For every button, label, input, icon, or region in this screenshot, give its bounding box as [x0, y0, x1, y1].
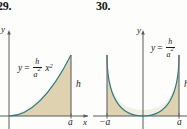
height-label-h-29: h	[76, 80, 81, 90]
denominator-exponent-30: 2	[171, 45, 174, 52]
x-tick-label-a-29: a	[68, 118, 73, 128]
denominator-base-29: a	[34, 70, 38, 79]
equation-equals-30: =	[157, 44, 162, 54]
equation-30: y = h a2	[151, 38, 176, 59]
figure-30-graphic	[93, 0, 187, 129]
equation-29: y = h a2 x2	[18, 58, 53, 79]
x-axis-label-29: x	[83, 118, 87, 127]
height-label-h-30: h	[184, 80, 187, 90]
figure-panel-30: 30. y −a a h y	[93, 0, 187, 129]
figure-pair-page: 29. y x a h	[0, 0, 187, 129]
y-axis-arrow-30	[141, 30, 145, 35]
equation-lhs-29: y	[18, 64, 22, 74]
y-axis-label-29: y	[1, 25, 5, 34]
y-axis-arrow-29	[7, 30, 11, 35]
denominator-exponent-29: 2	[38, 65, 41, 72]
fraction-denominator-30: a2	[166, 48, 175, 59]
figure-panel-29: 29. y x a h	[0, 0, 93, 129]
x-tick-label-neg-a-30: −a	[99, 118, 110, 128]
equation-variable-exponent-29: 2	[50, 63, 53, 70]
y-axis-label-30: y	[137, 26, 141, 35]
equation-lhs-30: y	[151, 44, 155, 54]
equation-fraction-30: h a2	[166, 38, 175, 59]
denominator-base-30: a	[167, 50, 171, 59]
equation-equals-29: =	[24, 64, 29, 74]
equation-fraction-29: h a2	[33, 58, 42, 79]
x-tick-label-a-30: a	[177, 118, 182, 128]
fraction-denominator-29: a2	[33, 68, 42, 79]
